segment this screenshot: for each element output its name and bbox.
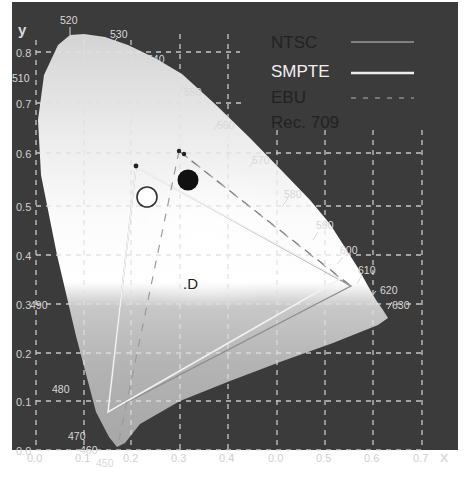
wl-560: 560 (217, 119, 235, 131)
y-tick-7: 0.7 (16, 98, 31, 110)
white-point-label: .D (183, 275, 198, 292)
legend-label-ntsc: NTSC (271, 33, 317, 52)
wl-450: 450 (96, 457, 114, 469)
cie-chromaticity-chart: .D 520 530 540 550 560 570 580 590 600 6… (0, 0, 473, 480)
wl-470: 470 (68, 430, 86, 442)
legend-label-ebu: EBU (271, 88, 306, 107)
x-tick-8: 0.7 (413, 452, 428, 464)
legend: NTSC SMPTE EBU Rec. 709 (271, 33, 414, 132)
x-tick-6: 0.5 (316, 452, 331, 464)
y-tick-4: 0.4 (16, 250, 31, 262)
white-circle-marker (137, 187, 157, 207)
x-tick-5: 0.0 (268, 452, 283, 464)
legend-item-ebu: EBU (271, 88, 414, 107)
x-tick-0: 0.0 (27, 452, 42, 464)
x-tick-2: 0.2 (123, 452, 138, 464)
x-tick-3: 0.3 (171, 452, 186, 464)
y-tick-2: 0.2 (16, 348, 31, 360)
y-tick-6: 0.6 (16, 148, 31, 160)
wl-520: 520 (60, 14, 78, 26)
x-axis-ticks: 0.0 0.1 0.2 0.3 0.4 0.0 0.5 0.6 0.7 (27, 452, 428, 464)
wl-630: 630 (392, 299, 410, 311)
x-axis-label: x (440, 448, 449, 465)
wl-550: 550 (184, 86, 202, 98)
wl-600: 600 (340, 244, 358, 256)
legend-label-rec709: Rec. 709 (271, 113, 339, 132)
ebu-green-primary (177, 149, 181, 153)
wl-490: 490 (30, 299, 48, 311)
y-axis-label: y (18, 21, 27, 38)
wl-510: 510 (12, 72, 30, 84)
x-tick-4: 0.4 (219, 452, 234, 464)
wl-580: 580 (284, 188, 302, 200)
wl-530: 530 (110, 28, 128, 40)
y-tick-1: 0.1 (16, 396, 31, 408)
wl-610: 610 (358, 264, 376, 276)
spectral-locus (38, 34, 388, 447)
legend-label-smpte: SMPTE (271, 62, 330, 81)
legend-item-smpte: SMPTE (271, 62, 414, 81)
wl-620: 620 (380, 284, 398, 296)
ntsc-green-primary (134, 164, 139, 169)
smpte-green-primary (182, 152, 186, 156)
wl-590: 590 (316, 219, 334, 231)
legend-item-ntsc: NTSC (271, 33, 414, 52)
wl-540: 540 (147, 53, 165, 65)
y-axis-ticks: 0.0 0.1 0.2 0.3 0.4 0.5 0.6 0.7 0.8 (16, 47, 31, 457)
x-tick-1: 0.1 (75, 452, 90, 464)
x-tick-7: 0.6 (364, 452, 379, 464)
wl-570: 570 (252, 154, 270, 166)
y-tick-5: 0.5 (16, 201, 31, 213)
legend-item-rec709: Rec. 709 (271, 113, 339, 132)
wl-480: 480 (52, 383, 70, 395)
y-tick-8: 0.8 (16, 47, 31, 59)
black-circle-marker (178, 170, 199, 191)
y-tick-3: 0.3 (16, 299, 31, 311)
